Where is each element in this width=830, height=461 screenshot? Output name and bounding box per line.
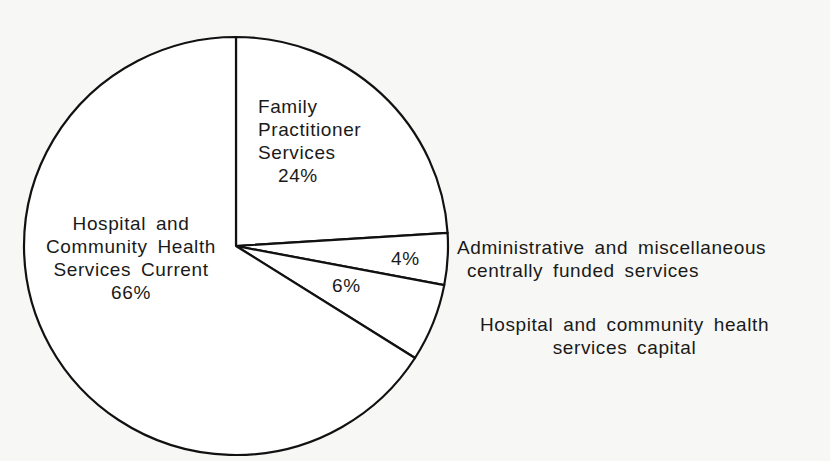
- slice-label-hchs-current: Hospital and Community Health Services C…: [36, 212, 226, 304]
- legend-label-admin: Administrative and miscellaneous central…: [457, 236, 766, 282]
- legend-label-capital: Hospital and community health services c…: [462, 313, 787, 359]
- slice-value-admin: 4%: [391, 247, 420, 270]
- slice-label-family-practitioner: Family Practitioner Services 24%: [258, 95, 361, 187]
- slice-value-capital: 6%: [332, 274, 361, 297]
